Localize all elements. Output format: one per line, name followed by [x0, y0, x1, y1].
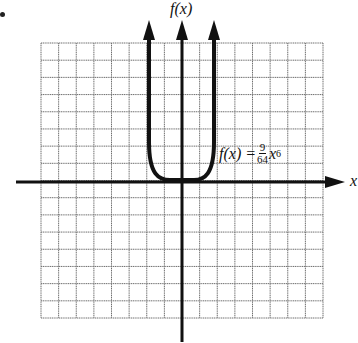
equation-prefix: f(x) = — [219, 145, 256, 163]
equation-variable: x — [269, 145, 276, 163]
equation-fraction: 9 64 — [257, 142, 268, 165]
x-axis-label: x — [350, 172, 357, 190]
graph-canvas — [0, 0, 358, 343]
equation-exponent: 6 — [276, 148, 281, 159]
function-equation-label: f(x) = 9 64 x6 — [219, 142, 281, 165]
fraction-denominator: 64 — [257, 154, 268, 165]
axes — [16, 38, 338, 342]
y-axis-label: f(x) — [170, 0, 192, 18]
